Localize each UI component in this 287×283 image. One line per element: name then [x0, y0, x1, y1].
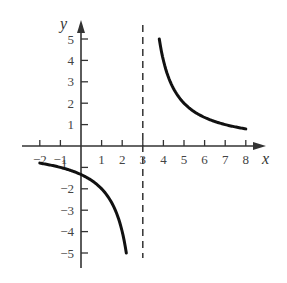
y-tick-label: 3 [68, 74, 75, 89]
x-tick-label: 2 [119, 152, 126, 167]
y-tick-label: −2 [60, 181, 74, 196]
x-tick-label: 4 [160, 152, 167, 167]
y-axis-label: y [58, 15, 68, 33]
x-tick-label: 6 [201, 152, 208, 167]
axes [22, 20, 266, 268]
y-tick-label: 5 [68, 32, 75, 47]
graph: −2−112345678−5−4−3−2112345 x y [0, 0, 287, 283]
y-tick-label: 4 [68, 53, 75, 68]
y-tick-label: −5 [60, 246, 74, 261]
y-tick-label: −4 [60, 224, 74, 239]
x-tick-label: 1 [98, 152, 105, 167]
y-tick-label: 1 [68, 117, 75, 132]
x-axis-label: x [261, 150, 269, 167]
x-tick-label: 8 [243, 152, 250, 167]
y-tick-label: −3 [60, 203, 74, 218]
y-tick-label: 2 [68, 96, 75, 111]
x-tick-label: 7 [222, 152, 229, 167]
x-tick-label: 5 [181, 152, 188, 167]
